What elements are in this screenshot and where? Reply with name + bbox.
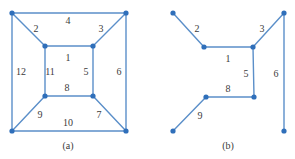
- edge-label-5: 5: [244, 69, 249, 79]
- edge-label-1: 1: [226, 54, 231, 64]
- edge-label-6: 6: [274, 69, 279, 79]
- panel-b-caption: (b): [222, 141, 234, 151]
- edge-label-3: 3: [260, 24, 265, 34]
- panel-b: 2315689(b): [0, 0, 295, 159]
- edge-label-9: 9: [198, 111, 203, 121]
- figure-canvas: 243121115689107(a) 2315689(b): [0, 0, 295, 159]
- edge-label-2: 2: [195, 24, 200, 34]
- edge-label-8: 8: [226, 84, 231, 94]
